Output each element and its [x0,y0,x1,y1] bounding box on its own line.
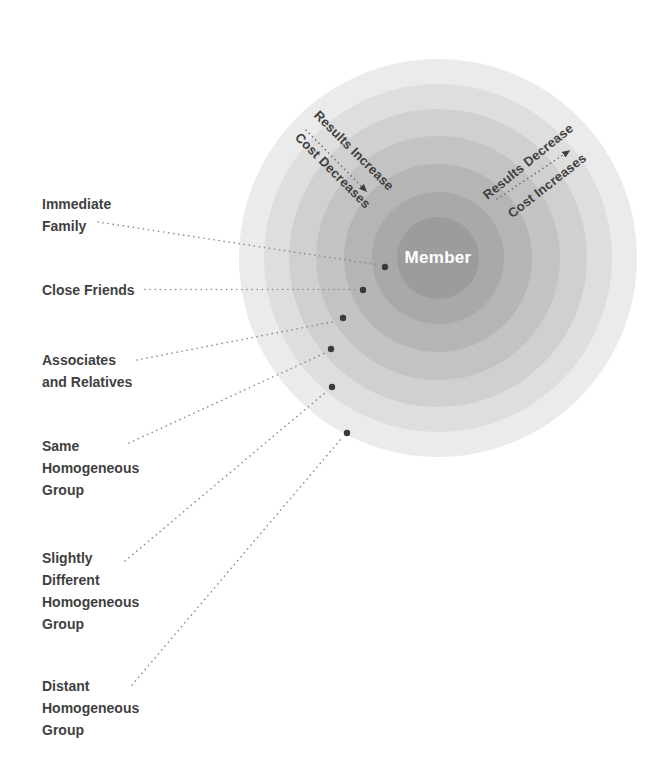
ring-label-close-friends: Close Friends [42,279,135,301]
leader-line-immediate-family [98,222,379,265]
ring-label-line: and Relatives [42,371,132,393]
member-center-label: Member [378,248,498,268]
ring-label-immediate-family: Immediate Family [42,193,111,237]
dot-distant-homogeneous-group [344,430,350,436]
ring-label-line: Different [42,569,139,591]
leader-line-associates-and-relatives [137,321,337,360]
ring-label-line: Homogeneous [42,457,139,479]
ring-label-line: Homogeneous [42,591,139,613]
dot-close-friends [360,287,366,293]
dot-slightly-different-homogeneous-group [329,384,335,390]
diagram-page: Member Results Increase Cost Decreases R… [0,0,656,771]
ring-label-line: Group [42,479,139,501]
dot-same-homogeneous-group [328,346,334,352]
ring-label-line: Group [42,613,139,635]
ring-label-line: Associates [42,349,132,371]
ring-label-associates-and-relatives: Associates and Relatives [42,349,132,393]
leader-line-distant-homogeneous-group [132,439,341,685]
ring-label-same-homogeneous-group: Same Homogeneous Group [42,435,139,501]
leader-line-same-homogeneous-group [129,353,325,443]
ring-label-line: Slightly [42,547,139,569]
ring-label-line: Group [42,719,139,741]
ring-label-line: Homogeneous [42,697,139,719]
ring-label-line: Immediate [42,193,111,215]
ring-label-slightly-different-homogeneous-group: Slightly Different Homogeneous Group [42,547,139,635]
dot-associates-and-relatives [340,315,346,321]
leader-line-slightly-different-homogeneous-group [125,392,326,561]
ring-label-line: Same [42,435,139,457]
ring-label-line: Close Friends [42,279,135,301]
ring-label-line: Family [42,215,111,237]
ring-label-distant-homogeneous-group: Distant Homogeneous Group [42,675,139,741]
ring-label-line: Distant [42,675,139,697]
